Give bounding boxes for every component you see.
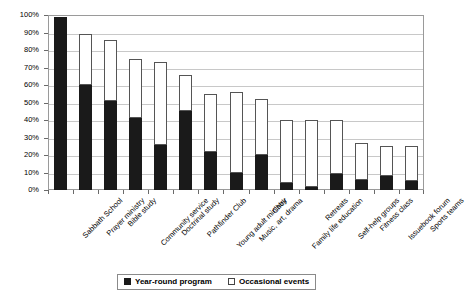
y-tick-label: 80%: [24, 46, 39, 54]
y-tick-label: 50%: [24, 99, 39, 107]
bar-segment-year-round-program[interactable]: [255, 155, 268, 190]
legend-item[interactable]: Occasional events: [228, 277, 309, 286]
x-tick-label: Community service: [158, 196, 209, 247]
bars-layer: [48, 15, 424, 190]
bar-segment-occasional-events[interactable]: [79, 34, 92, 85]
bar-segment-occasional-events[interactable]: [204, 94, 217, 152]
bar-segment-year-round-program[interactable]: [230, 173, 243, 191]
bar-segment-occasional-events[interactable]: [179, 75, 192, 112]
y-tick-label: 30%: [24, 134, 39, 142]
bar-segment-occasional-events[interactable]: [355, 143, 368, 180]
bar-segment-occasional-events[interactable]: [104, 40, 117, 101]
y-tick-label: 20%: [24, 151, 39, 159]
bar-segment-year-round-program[interactable]: [154, 145, 167, 191]
bar-segment-year-round-program[interactable]: [405, 181, 418, 190]
y-tick-label: 90%: [24, 29, 39, 37]
y-tick-label: 40%: [24, 116, 39, 124]
y-tick-label: 100%: [20, 11, 39, 19]
chart-legend: Year-round programOccasional events: [117, 274, 316, 290]
legend-item[interactable]: Year-round program: [124, 277, 212, 286]
bar-segment-occasional-events[interactable]: [280, 120, 293, 183]
bar-segment-occasional-events[interactable]: [405, 146, 418, 181]
bar-segment-year-round-program[interactable]: [380, 176, 393, 190]
bar-segment-occasional-events[interactable]: [154, 62, 167, 144]
bar-segment-occasional-events[interactable]: [230, 92, 243, 173]
y-tick-label: 10%: [24, 169, 39, 177]
bar-segment-year-round-program[interactable]: [129, 118, 142, 190]
bar-segment-occasional-events[interactable]: [129, 59, 142, 119]
y-tick-label: 60%: [24, 81, 39, 89]
bar-segment-year-round-program[interactable]: [54, 17, 67, 190]
bar-group[interactable]: [380, 15, 393, 190]
bar-group[interactable]: [280, 15, 293, 190]
bar-segment-year-round-program[interactable]: [104, 101, 117, 190]
bar-segment-year-round-program[interactable]: [330, 174, 343, 190]
legend-swatch-open-icon: [228, 278, 235, 285]
bar-group[interactable]: [154, 15, 167, 190]
bar-group[interactable]: [54, 15, 67, 190]
legend-label: Year-round program: [135, 277, 212, 286]
bar-segment-year-round-program[interactable]: [179, 111, 192, 190]
bar-segment-year-round-program[interactable]: [280, 183, 293, 190]
legend-label: Occasional events: [239, 277, 309, 286]
bar-group[interactable]: [79, 15, 92, 190]
bar-group[interactable]: [405, 15, 418, 190]
bar-group[interactable]: [230, 15, 243, 190]
bar-group[interactable]: [179, 15, 192, 190]
bar-group[interactable]: [355, 15, 368, 190]
bar-group[interactable]: [330, 15, 343, 190]
bar-group[interactable]: [255, 15, 268, 190]
bar-group[interactable]: [204, 15, 217, 190]
x-axis-labels: Sabbath SchoolPrayer ministryBible study…: [0, 190, 435, 265]
bar-segment-occasional-events[interactable]: [380, 146, 393, 176]
bar-segment-occasional-events[interactable]: [305, 120, 318, 187]
bar-segment-year-round-program[interactable]: [355, 180, 368, 191]
bar-segment-year-round-program[interactable]: [204, 152, 217, 191]
bar-group[interactable]: [129, 15, 142, 190]
bar-segment-occasional-events[interactable]: [255, 99, 268, 155]
y-tick-label: 70%: [24, 64, 39, 72]
bar-segment-occasional-events[interactable]: [330, 120, 343, 174]
bar-segment-year-round-program[interactable]: [79, 85, 92, 190]
bar-group[interactable]: [104, 15, 117, 190]
legend-swatch-filled-icon: [124, 278, 131, 285]
bar-group[interactable]: [305, 15, 318, 190]
